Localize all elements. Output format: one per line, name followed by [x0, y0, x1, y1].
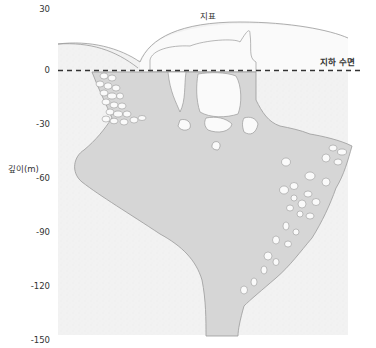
y-tick-minus-150: -150 — [10, 335, 50, 345]
y-tick-minus-120: -120 — [10, 281, 50, 291]
karst-cave-diagram: 30 0 -30 -60 -90 -120 -150 깊이(m) 지표 지하 수… — [0, 0, 376, 348]
air-pocket — [212, 142, 220, 150]
y-tick-minus-30: -30 — [10, 119, 50, 129]
air-chamber-small — [178, 119, 190, 130]
y-axis-label: 깊이(m) — [8, 162, 39, 174]
y-tick-minus-60: -60 — [10, 173, 50, 183]
cave-cross-section — [0, 0, 376, 348]
y-tick-30: 30 — [10, 4, 50, 14]
air-chamber-center — [197, 73, 241, 117]
y-tick-0: 0 — [10, 65, 50, 75]
y-tick-minus-90: -90 — [10, 227, 50, 237]
surface-label: 지표 — [200, 9, 216, 21]
water-table-label: 지하 수면 — [320, 55, 355, 67]
